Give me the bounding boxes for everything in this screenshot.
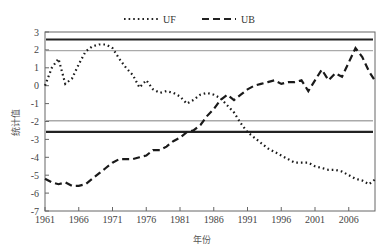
- x-tick-label: 1991: [238, 214, 258, 225]
- x-tick-label: 1996: [271, 214, 291, 225]
- x-axis-title: 年份: [193, 234, 211, 245]
- reference-lines: [46, 40, 373, 132]
- x-tick-label: 2001: [305, 214, 325, 225]
- x-tick-label: 1986: [204, 214, 224, 225]
- x-tick-label: 1976: [136, 214, 156, 225]
- x-axis: 1961196619711976198119861991199620012006: [35, 207, 359, 225]
- y-axis: 3210-1-2-3-4-5-6-7: [31, 27, 49, 217]
- series-uf-line: [45, 45, 376, 185]
- plot-area: [45, 32, 375, 211]
- x-tick-label: 1961: [35, 214, 55, 225]
- y-axis-title: 统计值: [10, 109, 21, 136]
- x-tick-label: 1981: [170, 214, 190, 225]
- y-tick-label: 1: [34, 62, 39, 73]
- y-tick-label: -2: [31, 116, 39, 127]
- y-tick-label: -6: [31, 188, 39, 199]
- x-tick-label: 1966: [69, 214, 89, 225]
- y-tick-label: 3: [34, 27, 39, 38]
- y-tick-label: 2: [34, 44, 39, 55]
- series-layer: [45, 45, 376, 186]
- x-tick-label: 1971: [103, 214, 123, 225]
- y-tick-label: -5: [31, 170, 39, 181]
- y-tick-label: -4: [31, 152, 39, 163]
- x-tick-label: 2006: [339, 214, 359, 225]
- y-tick-label: 0: [34, 80, 39, 91]
- y-tick-label: -1: [31, 98, 39, 109]
- y-tick-label: -3: [31, 134, 39, 145]
- series-ub-line: [45, 48, 376, 186]
- mann-kendall-chart: UF UB 3210-1-2-3-4-5-6-7 196119661971197…: [0, 0, 391, 249]
- legend: UF UB: [124, 14, 255, 25]
- legend-ub-label: UB: [241, 14, 255, 25]
- legend-uf-label: UF: [163, 14, 176, 25]
